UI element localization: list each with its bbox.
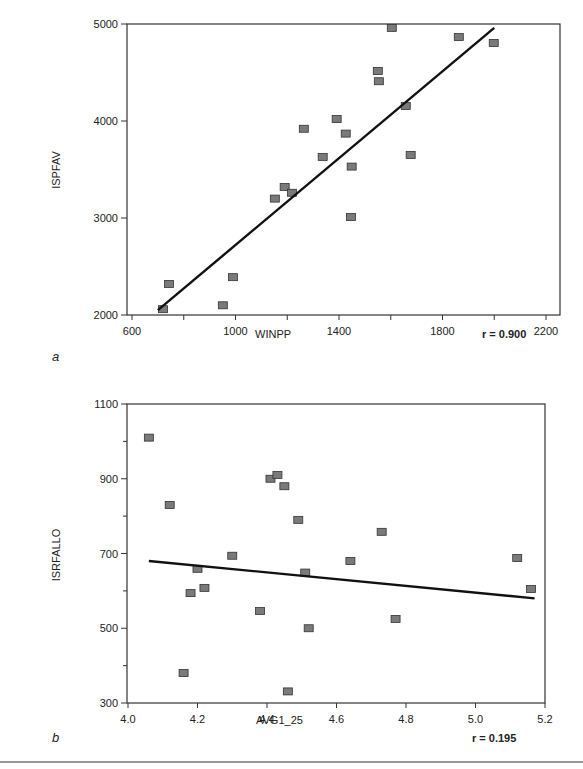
y-axis-label: ISPFAV [50,150,62,188]
data-point [280,483,289,490]
y-tick-label: 1100 [94,398,118,410]
panel-label: b [52,730,59,745]
figure: 20003000400050006001000140018002200WINPP… [0,0,583,769]
data-point [406,151,415,158]
x-tick-label: 4.6 [329,713,344,725]
data-point [270,195,279,202]
data-point [347,163,356,170]
data-point [387,24,396,31]
plot-frame [127,404,545,703]
x-tick-label: 1400 [327,325,351,337]
y-tick-label: 500 [100,622,118,634]
data-point [527,586,536,593]
data-point [200,584,209,591]
data-point [165,280,174,287]
scatter-chart-b: 30050070090011004.04.24.44.64.85.05.2AVG… [50,398,553,745]
x-tick-label: 4.0 [120,713,135,725]
x-tick-label: 4.8 [398,713,413,725]
y-tick-label: 5000 [94,18,118,30]
data-point [454,34,463,41]
data-point [228,274,237,281]
data-point [283,688,292,695]
x-tick-label: 2200 [534,325,558,337]
x-tick-label: 4.2 [190,713,205,725]
data-point [346,557,355,564]
data-point [318,153,327,160]
data-point [273,472,282,479]
x-tick-label: 5.0 [468,713,483,725]
data-point [256,608,265,615]
correlation-annotation: r = 0.195 [472,732,516,744]
data-point [513,554,522,561]
y-tick-label: 3000 [94,212,118,224]
y-tick-label: 700 [100,548,118,560]
y-tick-label: 4000 [94,115,118,127]
x-tick-label: 5.2 [537,713,552,725]
x-tick-label: 1000 [223,325,247,337]
scatter-chart-a: 20003000400050006001000140018002200WINPP… [50,18,560,364]
data-point [489,39,498,46]
data-point [218,302,227,309]
regression-line [158,28,494,310]
data-point [186,590,195,597]
data-point [179,670,188,677]
data-point [304,625,313,632]
data-point [377,528,386,535]
data-point [144,434,153,441]
y-tick-label: 900 [100,473,118,485]
data-point [373,68,382,75]
data-point [374,78,383,85]
y-axis-label: ISRFALLO [50,528,62,581]
data-point [165,501,174,508]
x-axis-label: AVG1_25 [256,714,303,726]
data-point [299,125,308,132]
data-point [346,214,355,221]
data-point [294,516,303,523]
panel-label: a [52,349,59,364]
regression-line [149,561,535,598]
x-tick-label: 1800 [430,325,454,337]
data-point [332,116,341,123]
y-tick-label: 2000 [94,309,118,321]
correlation-annotation: r = 0.900 [482,328,526,340]
plot-frame [127,24,560,315]
data-point [228,552,237,559]
x-tick-label: 600 [123,325,141,337]
data-point [391,615,400,622]
y-tick-label: 300 [100,697,118,709]
data-point [341,130,350,137]
x-axis-label: WINPP [255,328,291,340]
